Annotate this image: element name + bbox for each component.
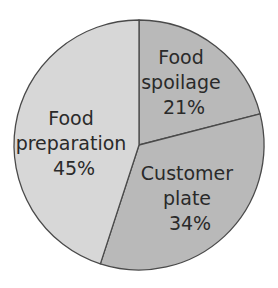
pie-chart: Food spoilage 21% Customer plate 34% Foo… [0,0,278,288]
